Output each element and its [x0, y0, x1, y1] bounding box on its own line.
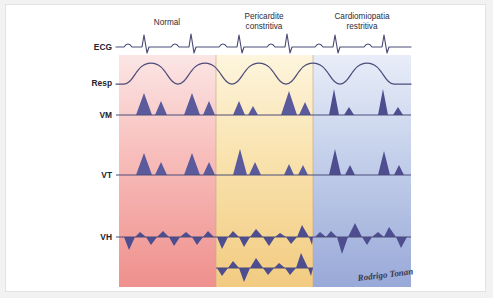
figure-card: Normal Pericardite constritiva Cardiomio… — [5, 4, 486, 292]
row-labels: ECG Resp VM VT VH — [92, 42, 113, 242]
column-header-pericardite-line1: Pericardite — [244, 12, 284, 21]
column-header-normal: Normal — [154, 18, 181, 27]
row-label-vh: VH — [100, 232, 112, 242]
row-label-ecg: ECG — [94, 42, 112, 52]
diagram-svg: Normal Pericardite constritiva Cardiomio… — [6, 5, 486, 292]
row-label-vt: VT — [101, 170, 113, 180]
column-header-cardiomiopatia-line1: Cardiomiopatia — [334, 12, 390, 21]
hemodynamic-diagram: Normal Pericardite constritiva Cardiomio… — [6, 5, 486, 292]
row-label-vm: VM — [99, 110, 112, 120]
column-headers: Normal Pericardite constritiva Cardiomio… — [154, 12, 390, 31]
panel-pericardite — [216, 55, 313, 287]
column-header-cardiomiopatia-line2: restritiva — [347, 22, 378, 31]
trace-ecg — [116, 34, 411, 53]
panel-normal — [119, 55, 216, 287]
row-label-resp: Resp — [92, 78, 112, 88]
column-header-pericardite-line2: constritiva — [246, 22, 283, 31]
